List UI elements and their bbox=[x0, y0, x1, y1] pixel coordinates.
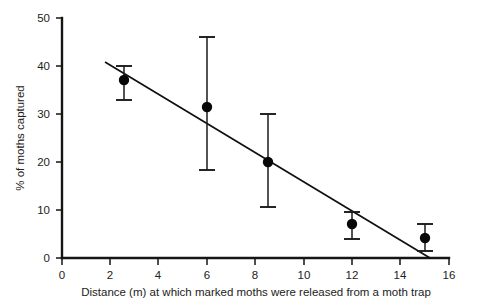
y-tick-label-0: 0 bbox=[44, 252, 50, 264]
x-tick-label-10: 10 bbox=[298, 269, 311, 281]
y-axis-tick-labels: 0 10 20 30 40 50 bbox=[37, 12, 50, 264]
x-tick-label-16: 16 bbox=[443, 269, 456, 281]
y-axis-title: % of moths captured bbox=[14, 85, 26, 190]
x-tick-label-14: 14 bbox=[394, 269, 407, 281]
data-point-group-15m bbox=[417, 224, 433, 251]
data-point-3m bbox=[119, 75, 129, 85]
data-point-group-12m bbox=[344, 212, 360, 239]
y-tick-label-50: 50 bbox=[37, 12, 50, 24]
y-tick-label-10: 10 bbox=[37, 204, 50, 216]
moth-capture-scatter-chart: 0 10 20 30 40 50 0 2 4 6 8 10 12 bbox=[0, 0, 481, 301]
x-tick-label-0: 0 bbox=[59, 269, 65, 281]
data-point-9m bbox=[263, 157, 273, 167]
data-point-group-3m bbox=[116, 66, 132, 100]
data-point-15m bbox=[420, 233, 430, 243]
x-tick-label-8: 8 bbox=[252, 269, 258, 281]
data-point-group-9m bbox=[260, 114, 276, 207]
x-tick-label-6: 6 bbox=[204, 269, 210, 281]
x-axis-tick-labels: 0 2 4 6 8 10 12 14 16 bbox=[59, 269, 456, 281]
chart-canvas: 0 10 20 30 40 50 0 2 4 6 8 10 12 bbox=[0, 0, 481, 301]
y-tick-label-40: 40 bbox=[37, 60, 50, 72]
data-point-group-6m bbox=[199, 37, 215, 170]
data-point-12m bbox=[347, 219, 357, 229]
x-tick-label-12: 12 bbox=[346, 269, 359, 281]
y-tick-label-20: 20 bbox=[37, 156, 50, 168]
x-tick-label-2: 2 bbox=[107, 269, 113, 281]
x-tick-label-4: 4 bbox=[155, 269, 162, 281]
y-tick-label-30: 30 bbox=[37, 108, 50, 120]
x-axis-title: Distance (m) at which marked moths were … bbox=[81, 286, 431, 298]
data-point-6m bbox=[202, 102, 212, 112]
